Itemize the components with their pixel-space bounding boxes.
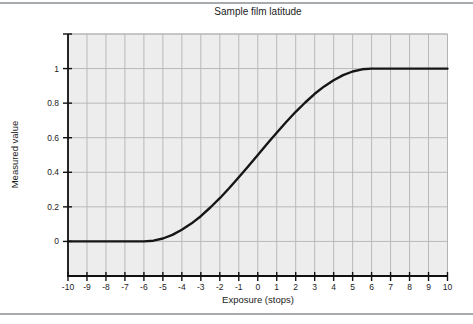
x-tick-label: 10 bbox=[443, 282, 453, 292]
x-tick-label: 7 bbox=[388, 282, 393, 292]
x-tick-label: 1 bbox=[274, 282, 279, 292]
y-tick-label: 0.8 bbox=[47, 98, 59, 108]
plot-area: -10-9-8-7-6-5-4-3-2-101234567891000.20.4… bbox=[0, 0, 473, 324]
x-tick-label: -6 bbox=[140, 282, 148, 292]
x-tick-label: -5 bbox=[159, 282, 167, 292]
x-tick-label: -2 bbox=[216, 282, 224, 292]
y-tick-label: 0 bbox=[54, 236, 59, 246]
x-tick-label: 0 bbox=[255, 282, 260, 292]
x-tick-label: -7 bbox=[121, 282, 129, 292]
x-tick-label: 2 bbox=[293, 282, 298, 292]
page: Sample film latitude Measured value Expo… bbox=[0, 0, 473, 324]
x-tick-label: 5 bbox=[350, 282, 355, 292]
y-tick-label: 0.2 bbox=[47, 202, 59, 212]
y-tick-label: 0.6 bbox=[47, 133, 59, 143]
x-tick-label: -4 bbox=[178, 282, 186, 292]
x-tick-label: -9 bbox=[83, 282, 91, 292]
x-tick-label: -3 bbox=[197, 282, 205, 292]
x-tick-label: -10 bbox=[62, 282, 75, 292]
x-tick-label: 9 bbox=[426, 282, 431, 292]
x-tick-label: 4 bbox=[331, 282, 336, 292]
x-tick-label: -8 bbox=[102, 282, 110, 292]
x-tick-label: 6 bbox=[369, 282, 374, 292]
y-tick-label: 0.4 bbox=[47, 167, 59, 177]
x-tick-label: 8 bbox=[407, 282, 412, 292]
x-tick-label: -1 bbox=[235, 282, 243, 292]
x-tick-label: 3 bbox=[312, 282, 317, 292]
y-tick-label: 1 bbox=[54, 64, 59, 74]
